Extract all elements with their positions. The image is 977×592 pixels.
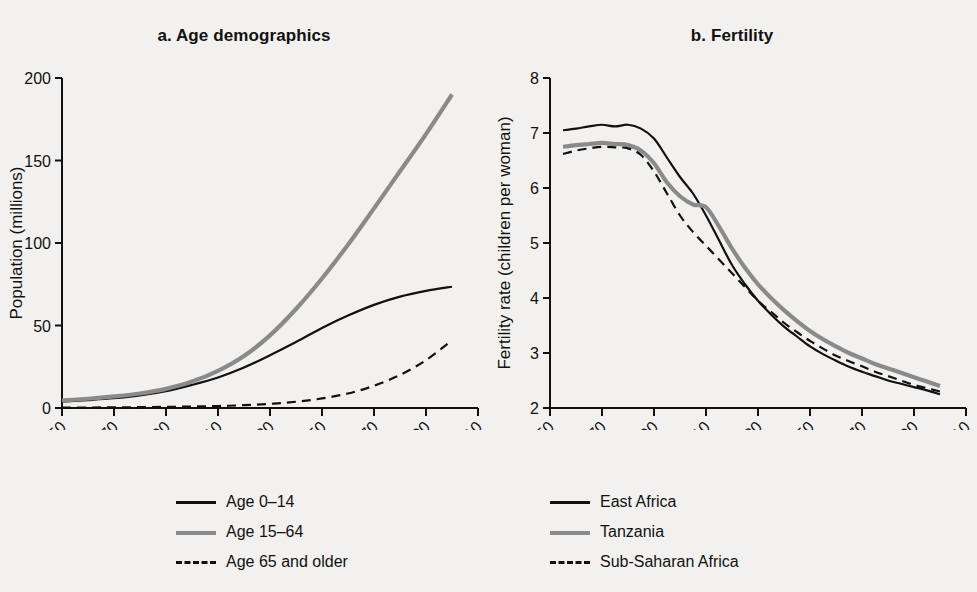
panel-b-legend: East Africa Tanzania Sub-Saharan Africa	[488, 487, 976, 577]
legend-key-line-icon	[550, 555, 590, 569]
legend-key-line-icon	[550, 525, 590, 539]
legend-item-label: Age 0–14	[226, 493, 295, 511]
y-axis-tick-label: 2	[530, 400, 539, 417]
x-axis-tick-label: 1950	[520, 418, 557, 430]
x-axis-tick-label: 2010	[188, 418, 225, 430]
series-line	[563, 143, 940, 386]
legend-item-label: Tanzania	[600, 523, 664, 541]
y-axis-tick-label: 0	[42, 400, 51, 417]
panel-age-demographics: a. Age demographics 05010015020019501970…	[0, 0, 488, 592]
x-axis-tick-label: 1990	[136, 418, 173, 430]
legend-item: Age 0–14	[0, 487, 488, 517]
series-line	[563, 125, 940, 395]
legend-key-line-icon	[176, 495, 216, 509]
legend-key-line-icon	[176, 525, 216, 539]
x-axis-tick-label: 2030	[728, 418, 765, 430]
figure-container: a. Age demographics 05010015020019501970…	[0, 0, 977, 592]
y-axis-tick-label: 150	[24, 153, 51, 170]
series-line	[62, 95, 452, 401]
panel-b-title: b. Fertility	[488, 26, 976, 46]
y-axis-tick-label: 100	[24, 235, 51, 252]
y-axis-tick-label: 6	[530, 180, 539, 197]
x-axis-tick-label: 2030	[240, 418, 277, 430]
y-axis-tick-label: 200	[24, 70, 51, 87]
legend-key-line-icon	[176, 555, 216, 569]
x-axis-tick-label: 2050	[292, 418, 329, 430]
y-axis-tick-label: 5	[530, 235, 539, 252]
legend-item: Age 65 and older	[0, 547, 488, 577]
x-axis-tick-label: 2090	[396, 418, 433, 430]
x-axis-tick-label: 2050	[780, 418, 817, 430]
x-axis-tick-label: 1970	[84, 418, 121, 430]
y-axis-tick-label: 7	[530, 125, 539, 142]
x-axis-tick-label: 2010	[676, 418, 713, 430]
legend-item: Tanzania	[488, 517, 976, 547]
x-axis-tick-label: 2070	[832, 418, 869, 430]
legend-item-label: Age 15–64	[226, 523, 303, 541]
y-axis-tick-label: 50	[33, 318, 51, 335]
x-axis-tick-label: 1950	[32, 418, 69, 430]
panel-a-plot: 0501001502001950197019902010203020502070…	[0, 60, 488, 430]
panel-b-svg: 2345678195019701990201020302050207020902…	[488, 60, 976, 430]
panel-b-plot: 2345678195019701990201020302050207020902…	[488, 60, 976, 430]
series-line	[563, 147, 940, 392]
y-axis-title: Population (millions)	[7, 166, 26, 319]
legend-item-label: East Africa	[600, 493, 676, 511]
y-axis-tick-label: 3	[530, 345, 539, 362]
y-axis-title: Fertility rate (children per woman)	[495, 116, 514, 369]
x-axis-tick-label: 2110	[449, 418, 485, 430]
legend-key-line-icon	[550, 495, 590, 509]
panel-fertility: b. Fertility 234567819501970199020102030…	[488, 0, 976, 592]
x-axis-tick-label: 2090	[884, 418, 921, 430]
x-axis-tick-label: 2110	[937, 418, 973, 430]
y-axis-tick-label: 8	[530, 70, 539, 87]
legend-item: East Africa	[488, 487, 976, 517]
panel-a-svg: 0501001502001950197019902010203020502070…	[0, 60, 488, 430]
legend-item: Age 15–64	[0, 517, 488, 547]
panel-a-legend: Age 0–14 Age 15–64 Age 65 and older	[0, 487, 488, 577]
x-axis-tick-label: 1970	[572, 418, 609, 430]
x-axis-tick-label: 2070	[344, 418, 381, 430]
panel-a-title: a. Age demographics	[0, 26, 488, 46]
y-axis-tick-label: 4	[530, 290, 539, 307]
legend-item: Sub-Saharan Africa	[488, 547, 976, 577]
x-axis-tick-label: 1990	[624, 418, 661, 430]
legend-item-label: Sub-Saharan Africa	[600, 553, 739, 571]
legend-item-label: Age 65 and older	[226, 553, 348, 571]
